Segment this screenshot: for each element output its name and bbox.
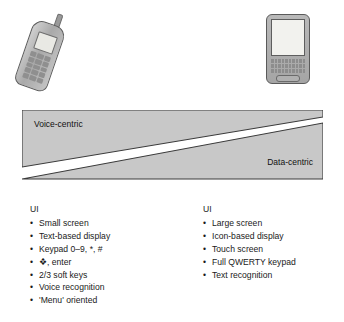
list-item: 'Menu' oriented [30,294,180,307]
ui-column-voice: UI Small screen Text-based display Keypa… [30,203,180,307]
list-item: 2/3 soft keys [30,269,180,282]
list-item: Full QWERTY keypad [203,256,343,269]
ui-list-left: Small screen Text-based display Keypad 0… [30,217,180,307]
phone-screen [33,31,58,55]
list-item: Voice recognition [30,281,180,294]
list-item: Text-based display [30,230,180,243]
pda-screen [271,19,305,56]
ui-heading-right: UI [203,203,343,216]
pda-icon [266,14,310,84]
mobile-phone-icon [13,12,69,93]
ui-list-right: Large screen Icon-based display Touch sc… [203,217,343,282]
diagram-canvas: Voice-centric Data-centric UI Small scre… [0,0,344,322]
list-item: Text recognition [203,269,343,282]
pda-qwerty-keypad [271,59,305,73]
voice-centric-label: Voice-centric [34,119,83,129]
pda-space-bar [276,75,300,82]
list-item: Touch screen [203,243,343,256]
phone-keypad [22,51,51,84]
list-item: ❖, enter [30,256,180,269]
list-item: Keypad 0–9, *, # [30,243,180,256]
ui-heading-left: UI [30,203,180,216]
phone-body [13,18,67,93]
ui-column-data: UI Large screen Icon-based display Touch… [203,203,343,281]
device-illustrations [0,0,344,100]
voice-data-spectrum-banner: Voice-centric Data-centric [22,110,323,180]
list-item: Icon-based display [203,230,343,243]
data-centric-label: Data-centric [267,157,313,167]
list-item: Large screen [203,217,343,230]
list-item: Small screen [30,217,180,230]
